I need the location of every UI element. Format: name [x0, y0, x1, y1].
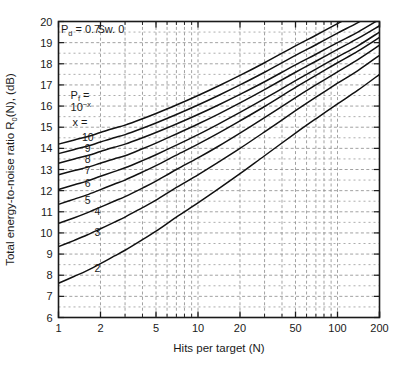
y-tick-label: 8	[46, 269, 52, 281]
swerling-annotation: Sw. 0	[97, 23, 124, 35]
y-tick-label: 11	[41, 206, 52, 218]
x-tick-label: 1	[55, 322, 61, 334]
curve-label-2: 2	[94, 262, 100, 274]
curve-label-4: 4	[94, 205, 100, 217]
curve-label-6: 6	[85, 177, 91, 189]
y-tick-label: 20	[40, 16, 52, 28]
y-tick-label: 17	[40, 79, 52, 91]
curve-label-9: 9	[85, 142, 91, 154]
y-tick-label: 14	[40, 142, 52, 154]
y-tick-label: 13	[40, 164, 52, 176]
x-equals-annotation: x =	[73, 116, 88, 128]
y-tick-label: 19	[40, 37, 52, 49]
x-tick-label: 50	[289, 322, 301, 334]
y-tick-label: 10	[40, 227, 52, 239]
x-tick-label: 100	[328, 322, 346, 334]
chart-svg: 1251020501002006789101112131415161718192…	[0, 0, 408, 372]
x-axis-title: Hits per target (N)	[173, 342, 265, 354]
x-tick-label: 5	[153, 322, 159, 334]
x-tick-label: 2	[97, 322, 103, 334]
y-tick-label: 16	[40, 100, 52, 112]
chart-background	[0, 0, 408, 372]
x-tick-label: 10	[192, 322, 204, 334]
y-tick-label: 12	[40, 185, 52, 197]
x-tick-label: 20	[234, 322, 246, 334]
curve-label-7: 7	[85, 164, 91, 176]
curve-label-3: 3	[94, 226, 100, 238]
y-tick-label: 15	[40, 121, 52, 133]
curve-label-5: 5	[85, 194, 91, 206]
y-tick-label: 6	[46, 312, 52, 324]
y-tick-label: 18	[40, 58, 52, 70]
radar-detection-chart-figure: 1251020501002006789101112131415161718192…	[0, 0, 408, 372]
y-tick-label: 9	[46, 248, 52, 260]
x-tick-label: 200	[370, 322, 388, 334]
y-tick-label: 7	[46, 290, 52, 302]
